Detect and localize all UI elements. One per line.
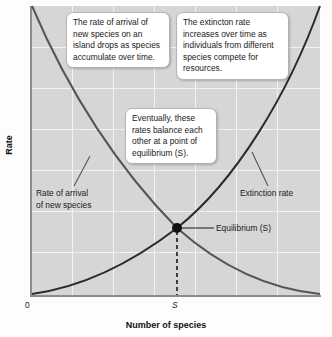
figure-root: The rate of arrival of new species on an…	[0, 0, 332, 337]
x-axis-tick-equilibrium: S	[172, 300, 178, 310]
label-arrival-rate-curve: Rate of arrival of new species	[36, 188, 131, 211]
gridline-horizontal	[31, 88, 320, 89]
gridline-horizontal	[31, 170, 320, 171]
x-axis-title: Number of species	[0, 320, 332, 330]
label-equilibrium-point: Equilibrium (S)	[216, 223, 331, 235]
label-extinction-rate-curve: Extinction rate	[240, 188, 330, 200]
x-axis-tick-origin: 0	[25, 300, 30, 310]
callout-arrival-rate: The rate of arrival of new species on an…	[66, 12, 170, 68]
y-axis-line	[30, 6, 32, 297]
x-axis-line	[30, 295, 321, 297]
callout-equilibrium: Eventually, these rates balance each oth…	[125, 108, 217, 164]
y-axis-title: Rate	[4, 125, 14, 165]
gridline-horizontal	[31, 252, 320, 253]
callout-extinction-rate: The extincton rate increases over time a…	[176, 12, 289, 80]
